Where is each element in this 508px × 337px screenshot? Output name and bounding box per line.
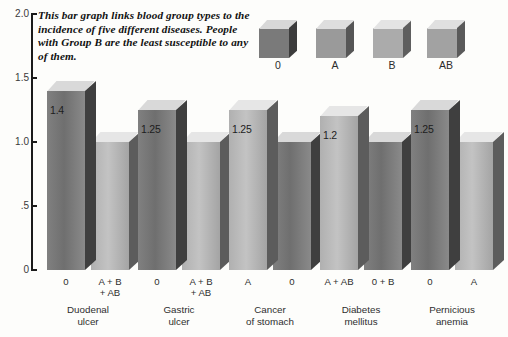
legend: 0ABAB [255, 12, 460, 82]
bar-side-face [267, 100, 278, 270]
bar-side-face [449, 100, 460, 270]
disease-label-line2: ulcer [168, 316, 189, 327]
disease-label-line2: of stomach [246, 316, 294, 327]
bar-side-face [176, 100, 187, 270]
bar-group-label-line1: 0 [289, 276, 294, 287]
bar [455, 142, 493, 270]
y-axis-tick-label: 0 [1, 264, 29, 275]
legend-cube-front [373, 28, 403, 58]
bar: 1.4 [47, 91, 85, 270]
bar-group-label-line1: A + B [98, 276, 121, 287]
bar-value-label: 1.25 [414, 123, 434, 135]
disease-label-line1: Gastric [163, 304, 194, 315]
legend-label: 0 [255, 59, 301, 71]
legend-cube-icon [259, 20, 289, 50]
bar-group-label-line1: 0 [63, 276, 68, 287]
bar-side-face [85, 81, 96, 270]
bar: 1.25 [229, 110, 267, 270]
disease-label-line2: mellitus [344, 316, 377, 327]
legend-label: B [369, 59, 415, 71]
y-axis-tick-label: 1.5 [1, 72, 29, 83]
legend-cube-icon [427, 20, 457, 50]
legend-cube-front [259, 28, 289, 58]
legend-cube-side [457, 21, 465, 58]
legend-label: A [312, 59, 358, 71]
disease-label-line1: Duodenal [67, 304, 109, 315]
disease-label-line1: Diabetes [342, 304, 381, 315]
disease-label-line1: Cancer [254, 304, 286, 315]
disease-label-line1: Pernicious [429, 304, 475, 315]
bar: 1.25 [411, 110, 449, 270]
legend-label: AB [423, 59, 469, 71]
bar-group-label-line1: 0 [154, 276, 159, 287]
bar: 1.2 [320, 116, 358, 270]
legend-cube-front [316, 28, 346, 58]
y-axis-tick-label: 1.0 [1, 136, 29, 147]
legend-cube-side [403, 21, 411, 58]
disease-label-line2: ulcer [77, 316, 98, 327]
bar-value-label: 1.25 [232, 123, 252, 135]
bar-front-face [273, 142, 311, 270]
bar-group-label-line1: 0 [427, 276, 432, 287]
bar [364, 142, 402, 270]
bar-value-label: 1.4 [50, 104, 64, 116]
bar-front-face [182, 142, 220, 270]
legend-cube-front [427, 28, 457, 58]
bar-group-label-line2: + AB [191, 287, 212, 298]
legend-cube-side [289, 21, 297, 58]
bar-value-label: 1.25 [141, 123, 161, 135]
disease-label: Perniciousanemia [395, 304, 508, 327]
y-axis-labels: 0.51.01.52.0 [0, 0, 29, 337]
y-axis-tick-label: 2.0 [1, 8, 29, 19]
y-axis-tick-label: .5 [1, 200, 29, 211]
disease-label-line2: anemia [436, 316, 468, 327]
bar-group-label-line1: 0 + B [372, 276, 395, 287]
bar-front-face [455, 142, 493, 270]
bar-group-label-line1: A [245, 276, 251, 287]
bar-side-face [358, 107, 369, 270]
bar-group-label-line2: + AB [100, 287, 121, 298]
bar-front-face [47, 91, 85, 270]
legend-cube-icon [373, 20, 403, 50]
bar: 1.25 [138, 110, 176, 270]
bar [273, 142, 311, 270]
bar-group-label: A [443, 276, 505, 287]
bar [91, 142, 129, 270]
bar-value-label: 1.2 [323, 129, 337, 141]
bar-side-face [493, 132, 504, 270]
bar-front-face [91, 142, 129, 270]
bar-group-label-line1: A + AB [324, 276, 353, 287]
bar [182, 142, 220, 270]
bar-group-label-line1: A + B [189, 276, 212, 287]
legend-cube-side [346, 21, 354, 58]
legend-cube-icon [316, 20, 346, 50]
bar-group-label-line1: A [471, 276, 477, 287]
bar-front-face [364, 142, 402, 270]
